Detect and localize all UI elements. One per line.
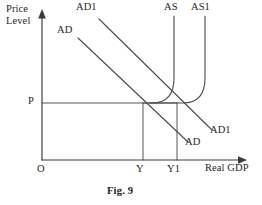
ad-label-top: AD <box>57 24 72 36</box>
as-label: AS <box>164 1 178 13</box>
price-level-p-label: P <box>28 95 34 107</box>
figure-caption: Fig. 9 <box>107 185 133 196</box>
ad1-label-bottom: AD1 <box>210 124 231 136</box>
aggregate-supply-curves-group <box>143 16 205 103</box>
aggregate-demand-curves-group <box>78 19 212 142</box>
x-axis-title: Real GDP <box>205 162 249 174</box>
ad1-label-top: AD1 <box>76 1 97 13</box>
y-axis-title-line2: Level <box>6 15 30 27</box>
guide-lines-group <box>42 103 177 160</box>
as1-label: AS1 <box>191 1 210 13</box>
output-y1-label: Y1 <box>167 163 180 175</box>
figure-container: Price Level Real GDP O P Y Y1 AD1 AD AS … <box>0 0 262 205</box>
as1-curve <box>150 16 205 103</box>
as-curve <box>143 16 174 103</box>
y-axis-title-line1: Price <box>6 3 30 15</box>
y-axis-title: Price Level <box>6 3 30 27</box>
origin-label: O <box>37 163 45 175</box>
ad-label-bottom: AD <box>185 136 200 148</box>
output-y-label: Y <box>136 163 144 175</box>
y-axis-arrow-icon <box>38 9 46 19</box>
